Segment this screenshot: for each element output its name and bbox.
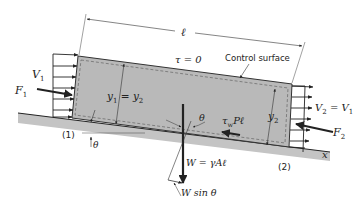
weight-sin-leader <box>174 183 181 196</box>
inlet-velocity-label: V1 <box>32 68 44 83</box>
length-dimension-line-right <box>195 33 302 46</box>
outlet-velocity-label: V2 = V1 <box>315 102 353 116</box>
control-surface-leader <box>240 64 249 78</box>
weight-label: W = γAℓ <box>186 157 226 168</box>
force-f1-arrow <box>37 89 72 95</box>
length-extension-left <box>79 14 86 55</box>
control-surface-label: Control surface <box>225 53 290 63</box>
x-axis-label: x <box>322 149 328 160</box>
weight-angle-label: θ <box>199 112 205 123</box>
force-f2-arrow <box>296 124 333 132</box>
length-dimension-line <box>87 19 175 31</box>
tau-zero-label: τ = 0 <box>175 54 202 65</box>
length-extension-right <box>292 42 305 83</box>
outlet-velocity-profile <box>289 86 313 152</box>
force-f1-label: F1 <box>14 84 27 99</box>
weight-component-label: W sin θ <box>181 187 217 198</box>
length-label: ℓ <box>181 26 186 39</box>
section-1-label: (1) <box>62 130 75 140</box>
ground-angle-label: θ <box>93 140 99 150</box>
weight-component-cross <box>168 180 182 183</box>
open-channel-control-volume-diagram: ℓ τ = 0 Control surface V1 F1 y1 = y2 y2… <box>0 0 361 208</box>
section-2-label: (2) <box>278 162 291 172</box>
force-f2-label: F2 <box>332 126 345 141</box>
